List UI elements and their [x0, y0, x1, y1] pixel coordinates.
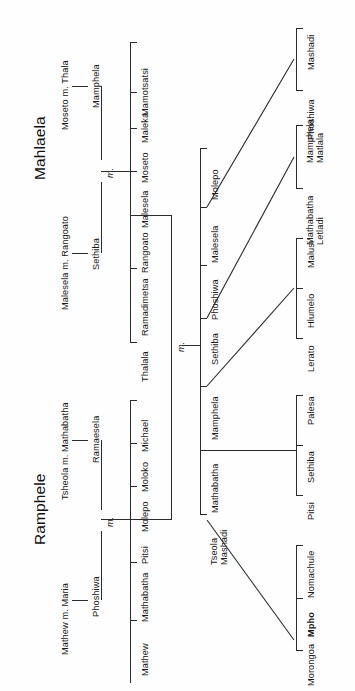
sibling-tick	[296, 598, 303, 599]
child-mahlaela-rangoato: Rangoato	[141, 232, 150, 273]
sibling-tick	[130, 215, 137, 216]
sibling-bar-group-letladi	[296, 125, 297, 188]
grandchild-mathabatha-letladi: Mathabatha Letladi	[305, 195, 326, 245]
child-mahlaela-malesela: Malesela	[141, 190, 150, 228]
child-ramphele-moloko: Moloko	[141, 462, 150, 492]
child-ramphele-molepo: Molepo	[141, 501, 150, 532]
sibling-tick	[130, 400, 137, 401]
sibling-tick	[296, 125, 303, 126]
sibling-tick	[130, 620, 137, 621]
sibling-tick	[296, 338, 303, 339]
central-child-phoshiwa: Phoshiwa	[211, 279, 220, 320]
sibling-tick	[130, 519, 137, 520]
couple-link-mahlaela-a	[72, 253, 88, 254]
sibling-tick	[296, 90, 303, 91]
sibling-tick	[130, 486, 137, 487]
child-ramphele-mathew: Mathew	[141, 643, 150, 676]
grandchild-pitsi: Pitsi	[307, 502, 316, 520]
family-title-ramphele: Ramphele	[32, 474, 48, 545]
sibling-tick	[296, 650, 303, 651]
grandchild-mamphela-matlala: Mamphela Matlala	[305, 119, 326, 163]
grandchild-malusi: Malusi	[307, 241, 316, 268]
child-ramphele-pitsi: Pitsi	[141, 546, 150, 564]
child-mahlaela-mamotsatsi: Mamotsatsi	[141, 68, 150, 116]
ramphele-descent-drop	[171, 345, 172, 520]
central-child-mathabatha: Mathabatha	[211, 463, 220, 513]
sibling-tick	[296, 395, 303, 396]
couple-label-mahlaela-a: Malesela m. Rangoato	[61, 216, 70, 310]
couple-child-ramphele-b: Ramaesela	[92, 416, 101, 463]
ramphele-descent-stem	[137, 519, 172, 520]
central-child-mamphela: Mamphela	[211, 396, 220, 440]
child-mahlaela-moseto: Moseto	[141, 152, 150, 183]
family-tree-figure: Mahlaela Ramphele Malesela m. Rangoato S…	[0, 0, 355, 691]
sibling-tick	[200, 514, 207, 515]
grandchild-nomachule: Nomachule	[307, 551, 316, 598]
central-child-tseola-mashadi: Tseola Mashadi	[209, 530, 230, 565]
sibling-bar-group-mashadi	[296, 28, 297, 90]
central-child-molepo: Molepo	[211, 169, 220, 200]
sibling-tick	[200, 265, 207, 266]
link-mathabatha-to-palesa-group	[207, 450, 296, 451]
central-union-marker: m.	[177, 342, 186, 352]
grandchild-morongoa: Morongoa	[307, 644, 316, 686]
sibling-tick	[296, 495, 303, 496]
couple-link-ramphele-a	[72, 600, 88, 601]
sibling-tick	[130, 128, 137, 129]
sibling-tick	[296, 188, 303, 189]
grandchild-mpho: Mpho	[307, 612, 316, 637]
sibling-tick	[130, 443, 137, 444]
couple-label-ramphele-a: Mathew m. Maria	[61, 583, 70, 655]
sibling-tick	[130, 171, 137, 172]
couple-label-ramphele-b: Tsheola m. Mathabatha	[61, 402, 70, 500]
child-mahlaela-ramadimetsa: Ramadimetsa	[141, 278, 150, 336]
sibling-tick	[296, 288, 303, 289]
mahlaela-descent-drop	[171, 215, 172, 345]
sibling-bar-mahlaela	[130, 42, 131, 342]
central-child-malesela: Malesela	[211, 225, 220, 263]
couple-link-mahlaela-b	[72, 86, 88, 87]
sibling-tick	[296, 545, 303, 546]
union-marker-gap	[100, 510, 103, 531]
sibling-tick	[296, 28, 303, 29]
sibling-tick	[130, 42, 137, 43]
couple-child-ramphele-a: Phoshiwa	[92, 576, 101, 617]
union-stem-mahlaela	[101, 171, 130, 172]
sibling-tick	[130, 268, 137, 269]
grandchild-mashadi: Mashadi	[307, 35, 316, 70]
child-ramphele-mathabatha: Mathabatha	[141, 572, 150, 622]
child-mahlaela-maleka: Maleka	[141, 113, 150, 143]
sibling-tick	[200, 450, 207, 451]
sibling-tick	[130, 92, 137, 93]
couple-label-mahlaela-b: Moseto m. Thala	[61, 60, 70, 130]
central-child-sethiba: Sethiba	[211, 333, 220, 365]
central-union-stem	[182, 345, 201, 346]
grandchild-palesa: Palesa	[307, 396, 316, 425]
sibling-tick	[200, 207, 207, 208]
grandchild-sethiba: Sethiba	[307, 451, 316, 483]
child-mahlaela-thalala: Thalala	[141, 351, 150, 382]
sibling-tick	[130, 342, 137, 343]
sibling-tick	[200, 386, 207, 387]
grandchild-lerato: Lerato	[307, 345, 316, 372]
sibling-tick	[200, 148, 207, 149]
union-marker-mahlaela: m.	[106, 168, 115, 178]
sibling-tick	[130, 562, 137, 563]
sibling-bar-central	[200, 148, 201, 514]
grandchild-hlumelo: Hlumelo	[307, 294, 316, 328]
couple-link-ramphele-b	[72, 440, 88, 441]
union-stem-ramphele	[101, 519, 130, 520]
child-ramphele-michael: Michael	[141, 420, 150, 452]
couple-child-mahlaela-b: Mamphela	[92, 64, 101, 108]
family-title-mahlaela: Mahlaela	[32, 116, 48, 180]
mahlaela-descent-stem	[137, 215, 172, 216]
sibling-tick	[296, 445, 303, 446]
sibling-tick	[200, 318, 207, 319]
sibling-tick	[296, 238, 303, 239]
couple-child-mahlaela-a: Sethiba	[92, 238, 101, 270]
